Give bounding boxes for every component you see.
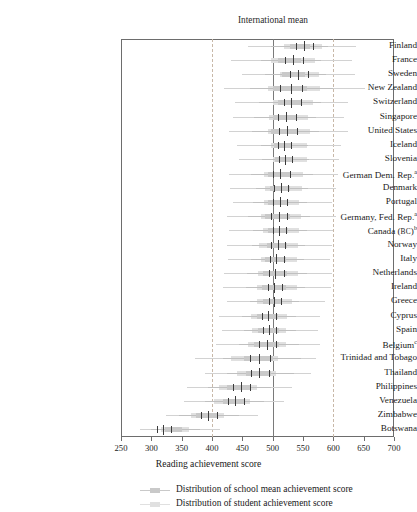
international-mean-title: International mean [163,15,383,25]
x-tick-550 [303,437,304,441]
median-tick [291,98,292,108]
distribution-row [0,83,417,95]
school-box [273,115,296,120]
distribution-row [0,353,417,365]
distribution-row [0,410,417,422]
distribution-row [0,211,417,223]
x-tick-250 [121,437,122,441]
school-box [290,44,311,49]
quartile-tick-q1 [273,227,274,234]
school-box [196,413,218,418]
quartile-tick-q1 [296,43,297,50]
quartile-tick-q1 [228,398,229,405]
school-box [223,399,245,404]
distribution-row [0,168,417,180]
school-box [227,385,250,390]
x-tick-350 [182,437,183,441]
quartile-tick-q1 [251,370,252,377]
quartile-tick-q3 [287,213,288,220]
legend-label: Distribution of school mean achievement … [176,484,353,494]
median-tick [287,126,288,136]
distribution-row [0,395,417,407]
quartile-tick-q3 [290,171,291,178]
median-tick [274,297,275,307]
x-axis-title: Reading achievement score [0,458,417,469]
school-box [263,299,282,304]
median-tick [280,197,281,207]
quartile-tick-q3 [284,256,285,263]
quartile-tick-q3 [171,426,172,433]
median-tick [284,141,285,151]
figure-root: International mean FinlandFranceSwedenNe… [0,0,417,512]
distribution-row [0,296,417,308]
quartile-tick-q1 [274,185,275,192]
distribution-row [0,239,417,251]
x-tick-500 [273,437,274,441]
median-tick [268,311,269,321]
quartile-tick-q3 [287,199,288,206]
quartile-tick-q1 [201,412,202,419]
distribution-row [0,182,417,194]
quartile-tick-q3 [288,185,289,192]
quartile-tick-q1 [280,85,281,92]
quartile-tick-q3 [282,284,283,291]
quartile-tick-q3 [296,114,297,121]
distribution-row [0,367,417,379]
x-tick-450 [242,437,243,441]
quartile-tick-q3 [250,384,251,391]
quartile-tick-q3 [292,156,293,163]
quartile-tick-q3 [276,327,277,334]
quartile-tick-q1 [233,384,234,391]
quartile-tick-q3 [302,85,303,92]
school-box [282,72,305,77]
median-tick [269,325,270,335]
median-tick [278,240,279,250]
distribution-row [0,140,417,152]
distribution-row [0,253,417,265]
distribution-row [0,339,417,351]
median-tick [235,396,236,406]
distribution-row [0,125,417,137]
median-tick [285,155,286,165]
school-box [268,200,289,205]
quartile-tick-q1 [285,57,286,64]
distribution-row [0,324,417,336]
median-tick [259,354,260,364]
median-tick [276,254,277,264]
median-tick [241,382,242,392]
quartile-tick-q1 [271,213,272,220]
quartile-tick-q1 [273,171,274,178]
quartile-tick-q1 [278,142,279,149]
legend-item: Distribution of school mean achievement … [0,484,417,496]
median-tick [298,70,299,80]
legend-swatch-icon [150,488,160,493]
quartile-tick-q1 [284,99,285,106]
quartile-tick-q3 [291,142,292,149]
quartile-tick-q3 [286,227,287,234]
distribution-row [0,381,417,393]
distribution-row [0,424,417,436]
median-tick [280,169,281,179]
quartile-tick-q1 [271,242,272,249]
quartile-tick-q1 [263,327,264,334]
quartile-tick-q1 [278,114,279,121]
quartile-tick-q3 [270,355,271,362]
distribution-row [0,54,417,66]
quartile-tick-q1 [290,71,291,78]
quartile-tick-q3 [276,341,277,348]
school-box [271,129,296,134]
median-tick [286,112,287,122]
x-tick-600 [333,437,334,441]
school-box [265,214,289,219]
quartile-tick-q3 [284,270,285,277]
distribution-row [0,196,417,208]
quartile-tick-q3 [285,242,286,249]
quartile-tick-q1 [269,298,270,305]
quartile-tick-q3 [301,99,302,106]
quartile-tick-q1 [270,256,271,263]
quartile-tick-q1 [262,313,263,320]
quartile-tick-q1 [250,355,251,362]
school-box [165,427,182,432]
median-tick [279,226,280,236]
distribution-row [0,97,417,109]
